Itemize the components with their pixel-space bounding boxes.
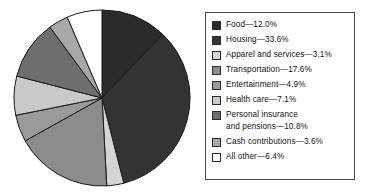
legend-item-personal-insurance-and-pensions[interactable]: Personal insurance and pensions—10.8% bbox=[212, 109, 349, 132]
legend-swatch-all-other bbox=[212, 153, 221, 162]
legend-item-entertainment[interactable]: Entertainment—4.9% bbox=[212, 79, 349, 91]
legend-swatch-health-care bbox=[212, 96, 221, 105]
legend-label-all-other: All other—6.4% bbox=[226, 151, 284, 163]
legend-label-cash-contributions: Cash contributions—3.6% bbox=[226, 136, 323, 148]
legend-swatch-food bbox=[212, 21, 221, 30]
legend-item-transportation[interactable]: Transportation—17.6% bbox=[212, 64, 349, 76]
legend-swatch-transportation bbox=[212, 66, 221, 75]
legend-swatch-housing bbox=[212, 36, 221, 45]
legend-label-housing: Housing—33.6% bbox=[226, 34, 289, 46]
legend-label-food: Food—12.0% bbox=[226, 19, 277, 31]
chart-legend: Food—12.0%Housing—33.6%Apparel and servi… bbox=[205, 12, 355, 180]
legend-item-all-other[interactable]: All other—6.4% bbox=[212, 151, 349, 163]
legend-label-health-care: Health care—7.1% bbox=[226, 94, 296, 106]
legend-swatch-cash-contributions bbox=[212, 138, 221, 147]
legend-item-housing[interactable]: Housing—33.6% bbox=[212, 34, 349, 46]
legend-item-apparel-and-services[interactable]: Apparel and services—3.1% bbox=[212, 49, 349, 61]
pie-chart-plot-area bbox=[12, 8, 192, 188]
legend-item-food[interactable]: Food—12.0% bbox=[212, 19, 349, 31]
legend-swatch-entertainment bbox=[212, 81, 221, 90]
legend-label-personal-insurance-and-pensions: Personal insurance and pensions—10.8% bbox=[226, 109, 308, 132]
legend-item-cash-contributions[interactable]: Cash contributions—3.6% bbox=[212, 136, 349, 148]
pie-chart-figure: Food—12.0%Housing—33.6%Apparel and servi… bbox=[0, 0, 365, 195]
legend-swatch-personal-insurance-and-pensions bbox=[212, 111, 221, 120]
legend-label-entertainment: Entertainment—4.9% bbox=[226, 79, 306, 91]
legend-swatch-apparel-and-services bbox=[212, 51, 221, 60]
pie-svg bbox=[12, 8, 192, 188]
legend-item-health-care[interactable]: Health care—7.1% bbox=[212, 94, 349, 106]
legend-label-transportation: Transportation—17.6% bbox=[226, 64, 312, 76]
legend-label-apparel-and-services: Apparel and services—3.1% bbox=[226, 49, 332, 61]
